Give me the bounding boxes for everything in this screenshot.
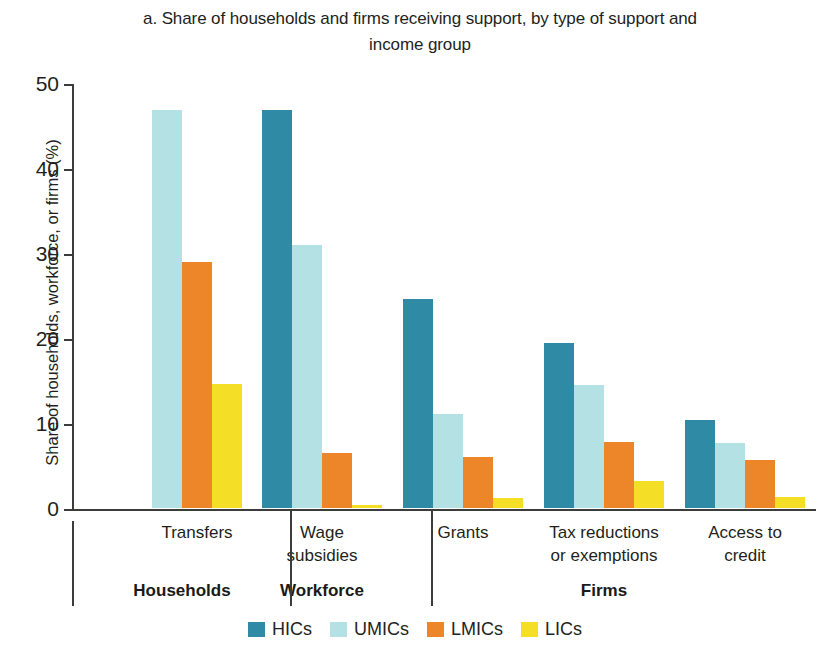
y-tick-mark (64, 424, 73, 426)
y-tick-mark (64, 84, 73, 86)
x-axis-separator-line-left (72, 521, 74, 606)
bar-lmics-2 (463, 457, 493, 508)
bar-hics-2 (403, 299, 433, 508)
bar-umics-3 (574, 385, 604, 508)
x-category-label-line: subsidies (232, 544, 412, 567)
y-tick-mark (64, 254, 73, 256)
legend-label: LICs (545, 619, 582, 640)
bar-hics-4 (685, 420, 715, 508)
legend-swatch-icon (330, 622, 347, 637)
chart-title-line-2: income group (120, 32, 720, 58)
bar-lmics-1 (322, 453, 352, 508)
legend-swatch-icon (427, 622, 444, 637)
x-axis-line (72, 509, 816, 511)
x-axis-separator-tick-1 (431, 510, 433, 521)
bar-lics-0 (212, 384, 242, 508)
legend-label: UMICs (354, 619, 409, 640)
y-tick-label: 30 (36, 242, 59, 266)
bar-umics-2 (433, 414, 463, 508)
chart-title-line-1: a. Share of households and firms receivi… (120, 6, 720, 32)
chart-title: a. Share of households and firms receivi… (120, 6, 720, 58)
legend-swatch-icon (248, 622, 265, 637)
y-tick-mark (64, 169, 73, 171)
legend-item-lics[interactable]: LICs (521, 619, 582, 640)
bar-hics-3 (544, 343, 574, 508)
bar-umics-0 (152, 110, 182, 508)
plot-area: 01020304050 (72, 84, 816, 510)
bar-hics-1 (262, 110, 292, 508)
chart-legend: HICsUMICsLMICsLICs (0, 619, 830, 640)
x-axis-separator-tick-0 (290, 510, 292, 521)
bar-lmics-3 (604, 442, 634, 508)
legend-item-hics[interactable]: HICs (248, 619, 312, 640)
x-supergroup-label-workforce: Workforce (202, 581, 442, 601)
bar-lics-1 (352, 505, 382, 508)
y-tick-label: 40 (36, 157, 59, 181)
y-tick-label: 10 (36, 412, 59, 436)
bar-umics-1 (292, 245, 322, 509)
bar-lics-4 (775, 497, 805, 508)
x-supergroup-label-firms: Firms (484, 581, 724, 601)
legend-label: HICs (272, 619, 312, 640)
y-tick-mark (64, 509, 73, 511)
bar-lics-2 (493, 498, 523, 508)
legend-label: LMICs (451, 619, 503, 640)
bar-umics-4 (715, 443, 745, 508)
y-axis-title: Share of households, workforce, or firms… (43, 88, 62, 518)
y-tick-label: 0 (47, 497, 59, 521)
legend-swatch-icon (521, 622, 538, 637)
x-axis-separator-line-1 (431, 521, 433, 606)
x-category-label-4: Access tocredit (655, 521, 830, 567)
y-tick-mark (64, 339, 73, 341)
x-axis-separator-line-0 (290, 521, 292, 606)
y-tick-label: 50 (36, 72, 59, 96)
legend-item-umics[interactable]: UMICs (330, 619, 409, 640)
legend-item-lmics[interactable]: LMICs (427, 619, 503, 640)
x-category-label-line: credit (655, 544, 830, 567)
bar-lics-3 (634, 481, 664, 508)
y-axis-line (72, 84, 74, 511)
bar-lmics-4 (745, 460, 775, 508)
bar-lmics-0 (182, 262, 212, 509)
x-category-label-line: Access to (655, 521, 830, 544)
y-tick-label: 20 (36, 327, 59, 351)
